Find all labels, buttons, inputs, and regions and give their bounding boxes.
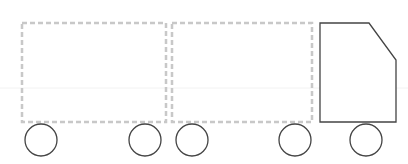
trailer-1 bbox=[22, 23, 166, 122]
wheel-1 bbox=[25, 124, 57, 156]
wheels-group bbox=[25, 124, 382, 156]
wheel-3 bbox=[176, 124, 208, 156]
trailers-group bbox=[22, 23, 312, 122]
wheel-4 bbox=[279, 124, 311, 156]
trailer-2 bbox=[172, 23, 312, 122]
truck-cab bbox=[320, 23, 396, 122]
wheel-2 bbox=[129, 124, 161, 156]
truck-diagram bbox=[0, 0, 408, 164]
wheel-5 bbox=[350, 124, 382, 156]
